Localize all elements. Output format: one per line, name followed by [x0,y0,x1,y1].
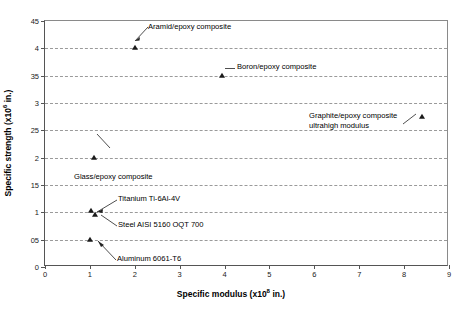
x-tick-label: 3 [178,270,182,279]
x-tick-label: 0 [43,270,47,279]
x-tick-label: 7 [357,270,361,279]
y-axis-title: Specific strength (x106 in.) [3,90,13,197]
gridline [45,103,447,104]
y-tick [41,240,45,241]
y-tick-label: 1 [35,208,39,217]
annotation-graphite-line2: ultrahigh modulus [309,121,397,131]
annotation-graphite-line1: Graphite/epoxy composite [309,111,397,121]
y-tick-label: 45 [31,17,39,26]
y-tick-label: 35 [31,71,39,80]
x-axis-title-tail: in.) [270,289,285,299]
x-tick [90,265,91,269]
x-tick [180,265,181,269]
data-point [419,113,425,118]
y-tick-label: 0 [35,263,39,272]
annotation-aramid: Aramid/epoxy composite [148,22,231,32]
x-tick-label: 9 [447,270,451,279]
x-tick [45,265,46,269]
x-tick-label: 5 [267,270,271,279]
data-point [132,45,138,50]
annotation-boron: Boron/epoxy composite [237,62,316,72]
data-point [219,72,225,77]
x-tick [225,265,226,269]
y-tick [41,21,45,22]
plot-area: 005115225335445 0123456789 [44,20,448,266]
y-tick [41,130,45,131]
y-tick-label: 4 [35,44,39,53]
x-tick-label: 4 [222,270,226,279]
gridline [45,48,447,49]
x-tick [314,265,315,269]
gridline [45,240,447,241]
gridline [45,212,447,213]
y-tick [41,185,45,186]
y-axis-title-text: Specific strength (x10 [3,108,13,196]
annotation-titanium: Titanium Ti-6Al-4V [118,194,180,204]
annotation-steel: Steel AISI 5160 OQT 700 [118,220,204,230]
scatter-chart: 005115225335445 0123456789 Aramid/epoxy … [0,0,462,311]
x-axis-title: Specific modulus (x108 in.) [0,289,462,299]
x-axis-title-text: Specific modulus (x10 [177,289,267,299]
x-tick [404,265,405,269]
data-point [92,212,98,217]
x-tick-label: 8 [402,270,406,279]
y-tick-label: 25 [31,126,39,135]
y-tick-label: 3 [35,99,39,108]
x-tick [269,265,270,269]
annotation-aluminum: Aluminum 6061-T6 [117,254,181,264]
annotation-glass: Glass/epoxy composite [74,172,153,182]
annotation-graphite: Graphite/epoxy composite ultrahigh modul… [309,111,397,130]
annotation-leader-lines [45,21,449,267]
x-tick [449,265,450,269]
y-axis-title-exponent: 6 [1,105,8,108]
y-tick-label: 2 [35,153,39,162]
x-tick [359,265,360,269]
y-tick [41,103,45,104]
x-tick-label: 6 [312,270,316,279]
gridline [45,130,447,131]
x-tick-label: 2 [133,270,137,279]
y-tick [41,76,45,77]
gridline [45,158,447,159]
data-point [87,236,93,241]
y-tick-label: 15 [31,181,39,190]
y-tick [41,48,45,49]
x-tick-label: 1 [88,270,92,279]
y-tick [41,212,45,213]
gridline [45,76,447,77]
x-tick [135,265,136,269]
y-tick-label: 05 [31,235,39,244]
gridline [45,185,447,186]
data-point [91,154,97,159]
y-tick [41,158,45,159]
y-axis-title-tail: in.) [3,90,13,105]
